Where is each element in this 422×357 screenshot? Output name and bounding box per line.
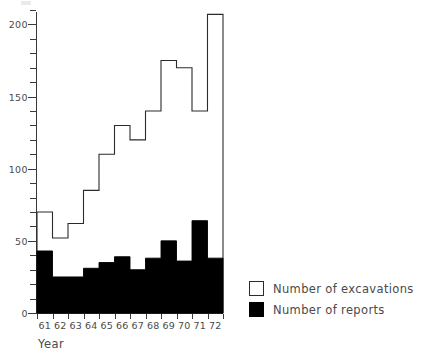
y-tick-130: [30, 125, 36, 126]
x-tick-2: [68, 314, 69, 319]
y-tick-90: [30, 183, 36, 184]
y-tick-label-0: 0: [0, 308, 28, 319]
y-tick-140: [30, 111, 36, 112]
legend-swatch-filled-square-icon: [249, 302, 264, 317]
legend-swatch-open-square-icon: [249, 281, 264, 296]
chart-legend: Number of excavations Number of reports: [249, 281, 414, 317]
y-axis-spine: [36, 12, 37, 314]
x-tick-3: [84, 314, 85, 319]
legend-item-reports: Number of reports: [249, 302, 414, 317]
y-tick-20: [30, 284, 36, 285]
y-tick-150: [28, 97, 37, 98]
x-tick-11: [208, 314, 209, 319]
y-tick-50: [28, 241, 37, 242]
scan-artifact: [21, 1, 31, 5]
x-tick-9: [177, 314, 178, 319]
y-tick-70: [30, 212, 36, 213]
x-tick-7: [146, 314, 147, 319]
x-tick-6: [130, 314, 131, 319]
y-tick-210: [30, 10, 36, 11]
y-tick-200: [28, 24, 37, 25]
y-tick-label-50: 50: [0, 235, 28, 246]
y-tick-170: [30, 68, 36, 69]
excavations-step-outline: [37, 14, 223, 313]
reports-filled-step: [37, 221, 223, 313]
y-tick-label-200: 200: [0, 19, 28, 30]
y-tick-10: [30, 299, 36, 300]
legend-item-excavations: Number of excavations: [249, 281, 414, 296]
y-tick-190: [30, 39, 36, 40]
y-tick-100: [28, 169, 37, 170]
x-tick-4: [99, 314, 100, 319]
x-tick-0: [37, 314, 38, 319]
x-tick-12: [223, 314, 224, 319]
y-tick-label-100: 100: [0, 163, 28, 174]
y-tick-160: [30, 82, 36, 83]
y-tick-180: [30, 53, 36, 54]
y-tick-0: [28, 313, 37, 314]
y-tick-60: [30, 226, 36, 227]
y-tick-40: [30, 255, 36, 256]
legend-label-excavations: Number of excavations: [273, 282, 414, 296]
x-tick-8: [161, 314, 162, 319]
y-tick-80: [30, 198, 36, 199]
x-tick-10: [192, 314, 193, 319]
chart-figure: 050100150200 616263646566676869707172 Ye…: [0, 0, 422, 357]
legend-label-reports: Number of reports: [273, 303, 385, 317]
x-tick-label-72: 72: [204, 320, 226, 331]
x-tick-1: [53, 314, 54, 319]
y-tick-30: [30, 270, 36, 271]
y-tick-110: [30, 154, 36, 155]
x-axis-title: Year: [38, 337, 64, 351]
x-tick-5: [115, 314, 116, 319]
y-tick-120: [30, 140, 36, 141]
y-tick-label-150: 150: [0, 91, 28, 102]
